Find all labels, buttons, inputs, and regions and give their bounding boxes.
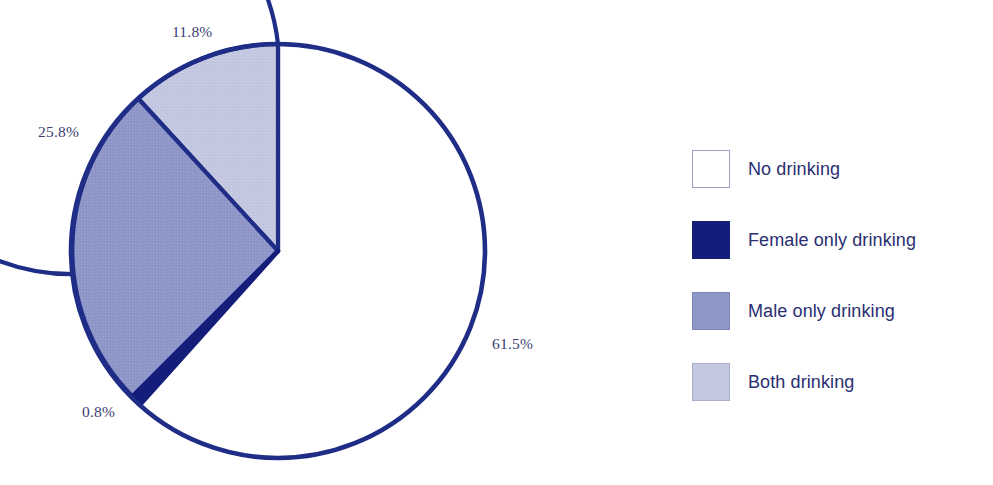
- chart-legend: No drinking Female only drinking Male on…: [692, 150, 982, 434]
- pie-value-label-both-drinking: 11.8%: [172, 24, 212, 40]
- legend-item-male-only-drinking: Male only drinking: [692, 292, 982, 363]
- pie-value-label-no-drinking: 61.5%: [492, 336, 533, 352]
- pie-value-label-male-only-drinking: 25.8%: [38, 124, 79, 140]
- pie-chart-area: 11.8% 25.8% 0.8% 61.5%: [0, 0, 620, 485]
- pie-chart-figure: 11.8% 25.8% 0.8% 61.5% No drinking Femal…: [0, 0, 993, 485]
- legend-swatch-both-drinking: [692, 363, 730, 401]
- legend-swatch-male-only-drinking: [692, 292, 730, 330]
- legend-item-no-drinking: No drinking: [692, 150, 982, 221]
- legend-swatch-no-drinking: [692, 150, 730, 188]
- legend-label-female-only-drinking: Female only drinking: [748, 230, 916, 250]
- legend-label-male-only-drinking: Male only drinking: [748, 301, 895, 321]
- legend-swatch-female-only-drinking: [692, 221, 730, 259]
- legend-label-no-drinking: No drinking: [748, 159, 840, 179]
- legend-item-both-drinking: Both drinking: [692, 363, 982, 434]
- pie-value-label-female-only-drinking: 0.8%: [82, 404, 115, 420]
- legend-label-both-drinking: Both drinking: [748, 372, 854, 392]
- legend-item-female-only-drinking: Female only drinking: [692, 221, 982, 292]
